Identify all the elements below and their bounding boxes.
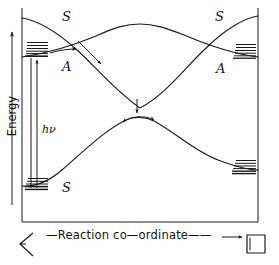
butadiene-glyph [20, 233, 33, 256]
absorption-arrow [31, 58, 37, 188]
curve-label-s-lower-left: S [62, 181, 71, 194]
crossing-approach-arrow [78, 41, 101, 64]
annotation-arrows [31, 41, 154, 188]
forward-reaction-arrow [50, 49, 76, 53]
curve-label-s-upper-left: S [62, 10, 71, 23]
axis-x-text: Reaction co—ordinate [58, 228, 188, 242]
photon-energy-label: hν [42, 124, 56, 135]
right-excited-levels [233, 45, 256, 59]
right-ground-levels [232, 161, 256, 174]
axis-dash-suffix: —— [188, 228, 211, 242]
potential-energy-curves [22, 16, 258, 186]
energy-axis-label: Energy [5, 81, 21, 151]
curve-a [22, 24, 258, 57]
plot-frame [22, 8, 258, 222]
curve-label-s-upper-right: S [215, 10, 224, 23]
reaction-coordinate-axis-label: —Reaction co—ordinate—— [46, 228, 256, 246]
curve-s-ground [22, 117, 258, 186]
curve-label-a-right: A [216, 62, 225, 75]
state-correlation-figure: S S A A S hν Energy —Reaction co—ordinat… [0, 0, 279, 265]
axis-dash-prefix: — [46, 228, 58, 242]
curve-label-a-left: A [62, 60, 71, 73]
